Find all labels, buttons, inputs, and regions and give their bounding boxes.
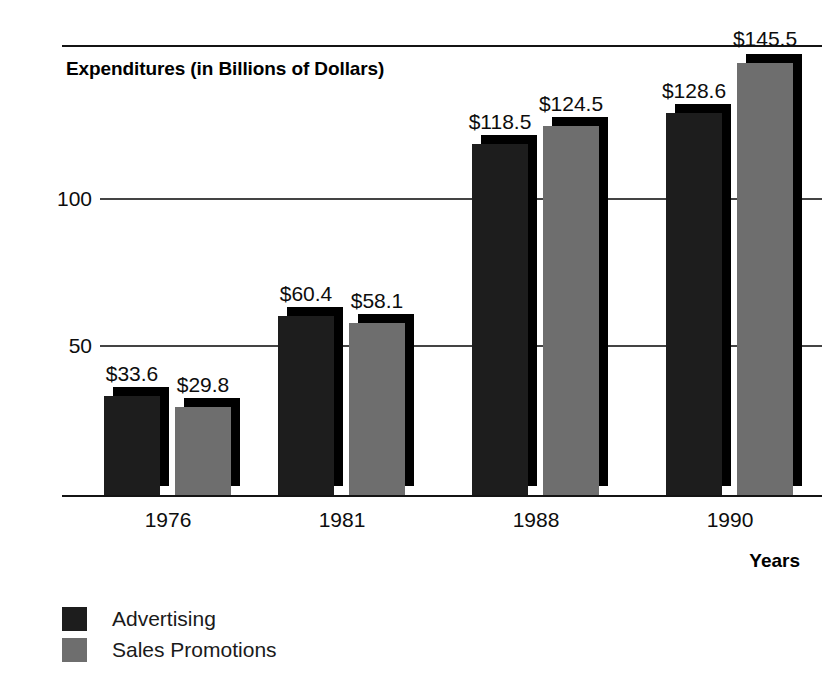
bar-sales-promotions-1988[interactable] — [543, 126, 599, 495]
xtick-label-1988: 1988 — [486, 508, 586, 532]
bar-advertising-1988[interactable] — [472, 144, 528, 495]
xtick-label-1981: 1981 — [292, 508, 392, 532]
value-label-sales-promotions-1981: $58.1 — [327, 289, 427, 313]
axis-baseline — [62, 495, 822, 497]
ytick-label-50: 50 — [22, 334, 92, 358]
bar-sales-promotions-1976[interactable] — [175, 407, 231, 495]
legend-swatch-sales-promotions — [62, 638, 87, 662]
value-label-sales-promotions-1988: $124.5 — [511, 92, 631, 116]
bar-face — [278, 316, 334, 495]
x-axis-title: Years — [749, 550, 800, 572]
bar-face — [175, 407, 231, 495]
value-label-advertising-1990: $128.6 — [634, 79, 754, 103]
value-label-sales-promotions-1976: $29.8 — [153, 373, 253, 397]
bar-face — [472, 144, 528, 495]
bar-chart-figure: Expenditures (in Billions of Dollars) 10… — [0, 0, 832, 683]
bar-face — [543, 126, 599, 495]
bar-advertising-1976[interactable] — [104, 396, 160, 495]
bar-sales-promotions-1981[interactable] — [349, 323, 405, 495]
legend-label-sales-promotions: Sales Promotions — [112, 638, 277, 662]
value-label-sales-promotions-1990: $145.5 — [705, 27, 825, 51]
xtick-label-1990: 1990 — [680, 508, 780, 532]
bar-face — [104, 396, 160, 495]
bar-advertising-1990[interactable] — [666, 113, 722, 495]
bar-sales-promotions-1990[interactable] — [737, 63, 793, 495]
legend-item-sales-promotions[interactable]: Sales Promotions — [62, 634, 277, 665]
bar-advertising-1981[interactable] — [278, 316, 334, 495]
xtick-label-1976: 1976 — [118, 508, 218, 532]
legend-item-advertising[interactable]: Advertising — [62, 603, 277, 634]
bar-face — [349, 323, 405, 495]
ytick-label-100: 100 — [22, 187, 92, 211]
legend-label-advertising: Advertising — [112, 607, 216, 631]
bar-face — [737, 63, 793, 495]
legend: Advertising Sales Promotions — [62, 603, 277, 665]
chart-title: Expenditures (in Billions of Dollars) — [66, 58, 384, 80]
legend-swatch-advertising — [62, 607, 87, 631]
bar-face — [666, 113, 722, 495]
